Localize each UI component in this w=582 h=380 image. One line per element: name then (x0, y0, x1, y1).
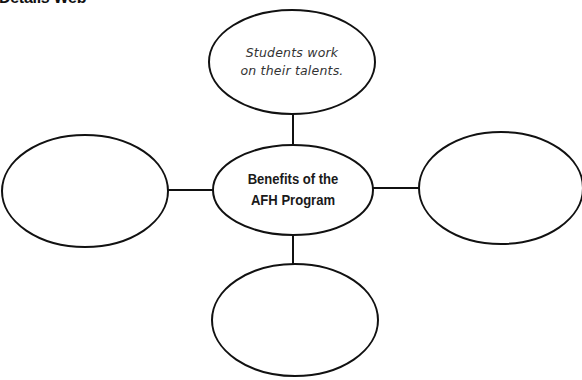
bottom-detail-text (235, 304, 355, 336)
center-line-1: Benefits of the (248, 169, 339, 190)
left-detail-text (25, 175, 145, 207)
top-detail-line-2: on their talents. (240, 62, 343, 80)
right-detail-text (440, 172, 560, 204)
center-main-idea-text: Benefits of the AFH Program (230, 168, 356, 212)
center-line-2: AFH Program (251, 190, 335, 211)
top-detail-line-1: Students work (246, 44, 339, 62)
top-detail-text: Students work on their talents. (222, 40, 362, 84)
